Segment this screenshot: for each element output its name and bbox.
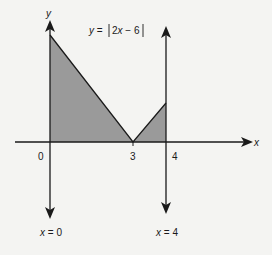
svg-text:2x − 6: 2x − 6: [112, 25, 140, 36]
boundary-label-x0: x = 0: [39, 227, 62, 238]
x-axis-label: x: [253, 137, 260, 148]
shaded-area-region: [50, 35, 166, 142]
y-axis-label: y: [45, 8, 52, 19]
tick-label-3: 3: [130, 151, 136, 162]
graph-figure: y x y = 2x − 6 0 3 4 x = 0 x = 4: [0, 0, 272, 255]
tick-label-0: 0: [38, 151, 44, 162]
eq-equals: =: [94, 25, 103, 36]
eq-const: − 6: [123, 25, 140, 36]
boundary-label-x4: x = 4: [155, 227, 178, 238]
tick-label-4: 4: [172, 151, 178, 162]
svg-text:y =: y =: [88, 25, 103, 36]
equation-label: y = 2x − 6: [88, 24, 143, 37]
